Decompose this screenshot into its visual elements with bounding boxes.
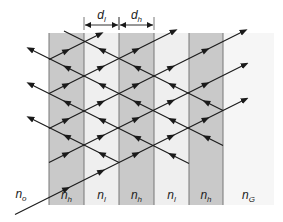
thickness-label-h: dh: [131, 8, 143, 24]
thickness-dimensions: dldh: [84, 8, 154, 30]
layer-stack: [49, 33, 274, 205]
layer-G: [223, 33, 274, 205]
thickness-label-l: dl: [97, 8, 106, 24]
thin-film-stack-diagram: nhnlnhnlnhnGno dldh: [0, 0, 283, 222]
medium-label: no: [15, 187, 27, 203]
